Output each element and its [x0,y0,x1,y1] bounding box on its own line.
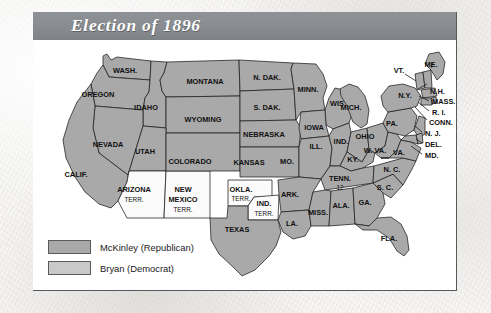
label-wyoming: WYOMING [185,115,222,124]
label-mississippi: MISS. [308,208,328,217]
label-virginia: VA. [393,148,405,157]
label-tennessee-votes: 12 [336,184,344,191]
label-oklahoma: OKLA. [230,185,253,194]
label-north-dakota: N. DAK. [253,73,281,82]
leader-line-vermont [405,74,416,81]
label-minnesota: MINN. [298,85,319,94]
label-south-carolina: S. C. [377,183,393,192]
label-new-mexico-terr: TERR. [173,206,192,213]
legend-label-bryan: Bryan (Democrat) [100,263,174,274]
label-maryland: MD. [425,151,439,160]
legend-row-bryan: Bryan (Democrat) [48,261,194,275]
label-florida: FLA. [381,234,397,243]
label-idaho: IDAHO [134,103,158,112]
election-map-figure-card: Election of 1896 [33,12,457,291]
label-north-carolina: N. C. [384,165,401,174]
label-new-york: N.Y. [398,91,412,100]
figure-title: Election of 1896 [71,15,201,36]
label-new-mexico-2: MEXICO [168,195,197,204]
label-california: CALIF. [65,170,88,179]
label-tennessee: TENN. [329,174,351,183]
legend-swatch-bryan [48,261,91,275]
label-massachusetts: MASS. [432,97,455,106]
label-maine: ME. [424,60,437,69]
label-south-dakota: S. DAK. [253,103,280,112]
label-vermont: VT. [394,66,405,75]
legend-row-mckinley: McKinley (Republican) [48,240,194,254]
label-missouri: MO. [280,157,294,166]
label-oklahoma-terr: TERR. [231,195,250,202]
label-colorado: COLORADO [168,157,211,166]
label-indian-terr: TERR. [254,210,273,217]
label-new-hampshire: N.H. [430,87,445,96]
label-nevada: NEVADA [93,140,124,149]
label-ohio: OHIO [356,132,375,141]
label-indiana: IND. [334,137,349,146]
label-kentucky: KY. [347,155,359,164]
figure-title-banner: Election of 1896 [33,12,456,40]
label-pennsylvania: PA. [386,119,398,128]
label-arkansas: ARK. [281,190,299,199]
label-indian: IND. [257,199,272,208]
label-new-jersey: N. J. [425,129,441,138]
label-alabama: ALA. [332,201,349,210]
label-georgia: GA. [358,198,371,207]
label-utah: UTAH [135,147,155,156]
label-iowa: IOWA [304,123,324,132]
label-rhode-island: R. I. [432,108,446,117]
legend-label-mckinley: McKinley (Republican) [100,242,194,253]
label-louisiana: LA. [286,219,298,228]
label-oregon: OREGON [82,90,115,99]
label-new-mexico-1: NEW [174,185,191,194]
label-washington: WASH. [113,66,137,75]
label-michigan: MICH. [341,103,362,112]
label-kansas: KANSAS [233,158,264,167]
legend-swatch-mckinley [48,240,91,254]
label-arizona: ARIZONA [117,185,151,194]
label-illinois: ILL. [309,142,322,151]
label-texas: TEXAS [225,225,250,234]
label-west-virginia: W. VA. [364,146,386,155]
label-delaware: DEL. [425,140,442,149]
label-montana: MONTANA [186,77,224,86]
state-connecticut[interactable] [421,98,432,105]
map-legend: McKinley (Republican) Bryan (Democrat) [48,240,194,275]
label-arizona-terr: TERR. [124,196,143,203]
label-connecticut: CONN. [429,118,453,127]
map-area: WASH. OREGON IDAHO MONTANA N. DAK. S. DA… [33,40,457,291]
label-nebraska: NEBRASKA [243,130,286,139]
